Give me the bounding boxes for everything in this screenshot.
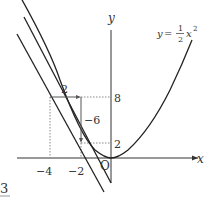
- svg-text:y: y: [156, 28, 163, 39]
- origin-label: O: [100, 159, 110, 173]
- x-axis-label: x: [197, 152, 204, 166]
- svg-text:1: 1: [178, 24, 183, 33]
- svg-text:2: 2: [178, 35, 183, 44]
- x-tick-neg2: −2: [68, 165, 84, 178]
- rise-label: −6: [84, 114, 100, 127]
- run-arrowhead-icon: [76, 95, 81, 99]
- rise-arrowhead-icon: [79, 138, 83, 143]
- y-axis-label: y: [107, 11, 115, 25]
- svg-text:2: 2: [193, 25, 197, 33]
- x-tick-neg4: −4: [36, 165, 52, 178]
- svg-text:x: x: [186, 28, 192, 39]
- parabola-curve: [21, 0, 192, 158]
- y-tick-8: 8: [114, 92, 121, 105]
- run-label: 2: [61, 83, 68, 96]
- corner-label: 3: [0, 181, 8, 196]
- secant-line: [17, 34, 104, 192]
- svg-text:=: =: [164, 28, 172, 39]
- graph-canvas: y x O −4 −2 8 2 2 −6 3 y = 1 2 x 2: [0, 0, 209, 198]
- y-tick-2: 2: [114, 138, 121, 151]
